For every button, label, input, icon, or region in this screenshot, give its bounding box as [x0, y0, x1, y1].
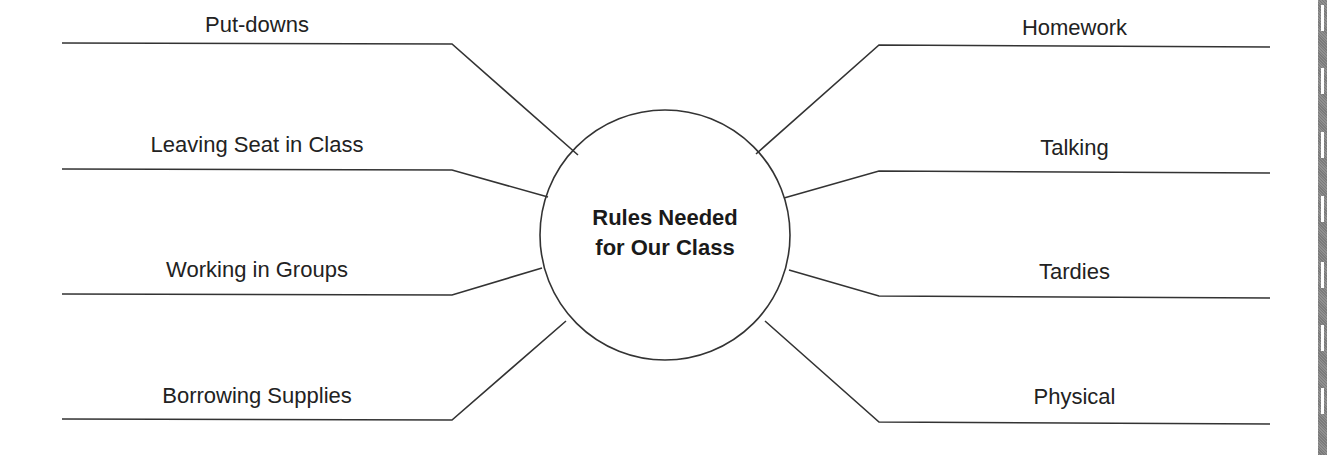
page-edge-dash — [1321, 388, 1324, 414]
page-edge-dash — [1321, 68, 1324, 94]
center-title: Rules Needed for Our Class — [565, 203, 765, 263]
page-edge-dash — [1321, 196, 1324, 222]
page-edge-dash — [1321, 325, 1324, 351]
page-edge-dash — [1321, 132, 1324, 158]
page-edge-dash — [1321, 262, 1324, 288]
center-title-line-2: for Our Class — [565, 233, 765, 263]
branch-line-talking — [784, 171, 1270, 198]
center-title-line-1: Rules Needed — [565, 203, 765, 233]
branch-line-leaving-seat — [62, 169, 548, 197]
page-edge-dash — [1321, 5, 1324, 31]
branch-label-physical: Physical — [879, 384, 1270, 410]
branch-label-put-downs: Put-downs — [62, 12, 452, 38]
branch-label-tardies: Tardies — [879, 259, 1270, 285]
branch-label-borrowing-supplies: Borrowing Supplies — [62, 383, 452, 409]
branch-label-homework: Homework — [879, 15, 1270, 41]
branch-label-working-in-groups: Working in Groups — [62, 257, 452, 283]
branch-label-leaving-seat: Leaving Seat in Class — [62, 132, 452, 158]
branch-label-talking: Talking — [879, 135, 1270, 161]
